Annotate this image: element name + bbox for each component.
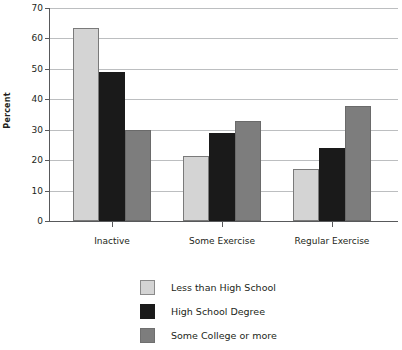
legend-item: Some College or more bbox=[140, 323, 380, 347]
bar bbox=[209, 133, 235, 221]
y-tick-label: 10 bbox=[32, 186, 43, 196]
x-tick-label: Some Exercise bbox=[189, 236, 255, 246]
chart-legend: Less than High SchoolHigh School DegreeS… bbox=[140, 275, 380, 347]
y-axis-title: Percent bbox=[3, 81, 12, 141]
bar bbox=[235, 121, 261, 221]
gridline bbox=[50, 69, 398, 70]
bar bbox=[183, 156, 209, 221]
y-tick-mark bbox=[45, 130, 50, 131]
y-tick-mark bbox=[45, 221, 50, 222]
y-tick-label: 30 bbox=[32, 125, 43, 135]
axes: 010203040506070 InactiveSome ExerciseReg… bbox=[49, 8, 398, 222]
bar-chart-figure: Percent 010203040506070 InactiveSome Exe… bbox=[0, 0, 402, 350]
legend-swatch bbox=[140, 304, 155, 319]
y-tick-label: 60 bbox=[32, 33, 43, 43]
x-tick-label: Regular Exercise bbox=[295, 236, 370, 246]
y-tick-label: 40 bbox=[32, 94, 43, 104]
y-tick-mark bbox=[45, 8, 50, 9]
legend-item: Less than High School bbox=[140, 275, 380, 299]
legend-swatch bbox=[140, 280, 155, 295]
legend-item: High School Degree bbox=[140, 299, 380, 323]
y-tick-mark bbox=[45, 191, 50, 192]
x-tick-mark bbox=[112, 222, 113, 227]
y-tick-mark bbox=[45, 69, 50, 70]
gridline bbox=[50, 8, 398, 9]
legend-label: Some College or more bbox=[171, 330, 277, 341]
bar bbox=[319, 148, 345, 221]
y-tick-mark bbox=[45, 160, 50, 161]
gridline bbox=[50, 38, 398, 39]
y-tick-label: 20 bbox=[32, 155, 43, 165]
y-tick-label: 50 bbox=[32, 64, 43, 74]
legend-swatch bbox=[140, 328, 155, 343]
bar bbox=[293, 169, 319, 221]
bar bbox=[125, 130, 151, 221]
y-tick-mark bbox=[45, 99, 50, 100]
x-axis-spine bbox=[49, 221, 398, 222]
plot-area: Percent 010203040506070 InactiveSome Exe… bbox=[0, 0, 402, 250]
x-tick-mark bbox=[222, 222, 223, 227]
x-tick-mark bbox=[332, 222, 333, 227]
legend-label: Less than High School bbox=[171, 282, 276, 293]
y-tick-label: 70 bbox=[32, 3, 43, 13]
bar bbox=[99, 72, 125, 221]
bar bbox=[73, 28, 99, 221]
y-tick-label: 0 bbox=[37, 216, 43, 226]
legend-label: High School Degree bbox=[171, 306, 265, 317]
x-tick-label: Inactive bbox=[94, 236, 130, 246]
y-tick-mark bbox=[45, 38, 50, 39]
bar bbox=[345, 106, 371, 221]
